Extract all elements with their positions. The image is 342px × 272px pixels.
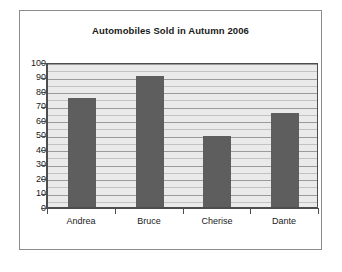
x-tick-label: Dante — [250, 217, 318, 226]
plot-area — [47, 63, 318, 208]
x-tick-mark — [318, 209, 319, 214]
x-tick-mark — [183, 209, 184, 214]
bar — [136, 76, 164, 207]
chart-title: Automobiles Sold in Autumn 2006 — [20, 25, 321, 36]
x-tick-mark — [47, 209, 48, 214]
x-tick-mark — [115, 209, 116, 214]
x-tick-label: Cherise — [183, 217, 251, 226]
x-axis-tick-labels: AndreaBruceCheriseDante — [47, 217, 318, 231]
x-tick-label: Andrea — [47, 217, 115, 226]
chart-frame: Automobiles Sold in Autumn 2006 10090807… — [19, 10, 322, 250]
bar — [203, 136, 231, 207]
plot-wrapper — [47, 63, 318, 208]
x-axis-tick-marks — [47, 209, 318, 215]
x-tick-label: Bruce — [115, 217, 183, 226]
bar — [68, 98, 96, 207]
bar — [271, 113, 299, 207]
bars-layer — [48, 64, 317, 207]
x-tick-mark — [250, 209, 251, 214]
